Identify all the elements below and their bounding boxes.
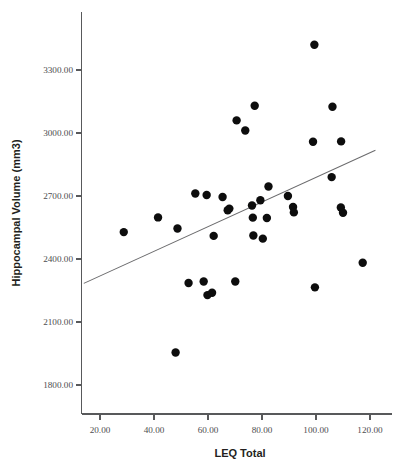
data-point xyxy=(251,102,259,110)
y-tick-label: 3300.00 xyxy=(43,65,73,75)
data-point xyxy=(339,209,347,217)
data-point xyxy=(309,138,317,146)
x-tick-label: 40.00 xyxy=(144,425,165,435)
data-point xyxy=(256,196,264,204)
x-tick-label: 120.00 xyxy=(357,425,383,435)
data-point xyxy=(249,231,257,239)
data-point xyxy=(310,41,318,49)
scatter-plot-figure: 1800.002100.002400.002700.003000.003300.… xyxy=(0,0,397,469)
data-point xyxy=(120,228,128,236)
y-axis-title: Hippocampal Volume (mm3) xyxy=(10,139,22,286)
data-point xyxy=(359,259,367,267)
data-point xyxy=(328,103,336,111)
data-point xyxy=(184,279,192,287)
data-point xyxy=(171,348,179,356)
data-point xyxy=(199,277,207,285)
data-point xyxy=(290,208,298,216)
y-tick-label: 2700.00 xyxy=(43,191,73,201)
data-point xyxy=(225,204,233,212)
data-point xyxy=(232,116,240,124)
data-point xyxy=(208,289,216,297)
y-tick-label: 2100.00 xyxy=(43,317,73,327)
y-tick-label: 1800.00 xyxy=(43,380,73,390)
data-point xyxy=(249,213,257,221)
data-point xyxy=(231,277,239,285)
x-axis-title: LEQ Total xyxy=(214,447,265,459)
y-tick-label: 3000.00 xyxy=(43,128,73,138)
x-tick-label: 80.00 xyxy=(252,425,273,435)
y-tick-label: 2400.00 xyxy=(43,254,73,264)
data-point xyxy=(218,193,226,201)
data-point xyxy=(173,224,181,232)
data-point xyxy=(259,234,267,242)
x-tick-label: 100.00 xyxy=(303,425,329,435)
data-point xyxy=(311,283,319,291)
data-point xyxy=(263,214,271,222)
data-point xyxy=(327,173,335,181)
y-axis-ticks: 1800.002100.002400.002700.003000.003300.… xyxy=(43,65,81,390)
data-point xyxy=(209,232,217,240)
x-tick-label: 60.00 xyxy=(198,425,219,435)
x-tick-label: 20.00 xyxy=(90,425,111,435)
x-axis-ticks: 20.0040.0060.0080.00100.00120.00 xyxy=(90,414,383,435)
data-point xyxy=(241,126,249,134)
regression-line-group xyxy=(84,150,376,283)
data-point xyxy=(337,137,345,145)
chart-canvas: 1800.002100.002400.002700.003000.003300.… xyxy=(0,0,397,469)
regression-line xyxy=(84,150,376,283)
data-point xyxy=(154,213,162,221)
data-points-group xyxy=(120,41,367,357)
data-point xyxy=(264,182,272,190)
data-point xyxy=(284,192,292,200)
data-point xyxy=(202,191,210,199)
data-point xyxy=(248,201,256,209)
data-point xyxy=(191,189,199,197)
